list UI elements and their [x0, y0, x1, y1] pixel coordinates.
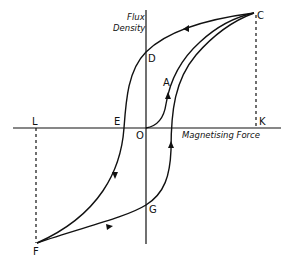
x-axis-label: Magnetising Force: [182, 130, 260, 140]
point-label-k: K: [259, 116, 266, 127]
hysteresis-loop-diagram: Flux Density Magnetising Force C D A E O…: [0, 0, 289, 261]
arrow-initial-curve-icon: [165, 92, 171, 99]
arrow-f-to-g-icon: [106, 224, 113, 230]
arrow-c-to-d-icon: [183, 25, 189, 32]
point-label-c: C: [257, 10, 264, 21]
y-axis-label-density: Density: [113, 23, 146, 33]
arrow-g-to-c-icon: [168, 141, 174, 148]
point-label-f: F: [33, 246, 39, 257]
arrow-e-to-f-icon: [112, 172, 118, 179]
initial-magnetisation-curve: [146, 13, 254, 128]
point-label-e: E: [114, 116, 120, 127]
point-label-a: A: [163, 77, 170, 88]
point-label-l: L: [32, 116, 38, 127]
point-label-g: G: [149, 204, 157, 215]
point-label-d: D: [148, 53, 156, 64]
point-label-o: O: [136, 130, 144, 141]
y-axis-label-flux: Flux: [127, 12, 146, 22]
